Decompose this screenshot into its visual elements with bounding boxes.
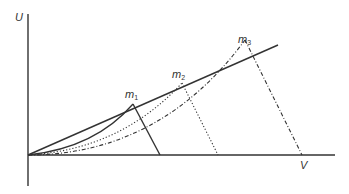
reference-line — [28, 45, 278, 155]
drop-line-m3 — [245, 40, 302, 155]
point-label-m1: m1 — [125, 89, 138, 101]
drop-line-m2 — [182, 83, 218, 155]
v-axis-label: V — [300, 160, 307, 171]
diagram: U V m1 m2 m3 — [0, 0, 349, 194]
drop-line-m1 — [133, 104, 160, 155]
m2-letter: m — [172, 68, 181, 80]
point-label-m2: m2 — [172, 69, 185, 81]
point-label-m3: m3 — [238, 34, 251, 46]
m2-subscript: 2 — [181, 74, 185, 81]
diagram-canvas — [0, 0, 349, 194]
m3-subscript: 3 — [247, 39, 251, 46]
m1-subscript: 1 — [134, 94, 138, 101]
m1-letter: m — [125, 88, 134, 100]
m3-letter: m — [238, 33, 247, 45]
u-axis-label: U — [15, 12, 23, 23]
